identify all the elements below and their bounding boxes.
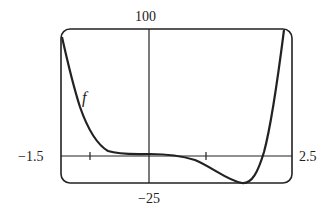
y-min-label: −25 [138,192,160,206]
plot-canvas [0,0,333,220]
function-curve-f [62,30,284,183]
x-max-label: 2.5 [299,150,317,164]
x-min-label: −1.5 [18,150,43,164]
plot-frame [61,29,292,183]
y-max-label: 100 [135,10,156,24]
function-label-f: f [82,90,86,106]
